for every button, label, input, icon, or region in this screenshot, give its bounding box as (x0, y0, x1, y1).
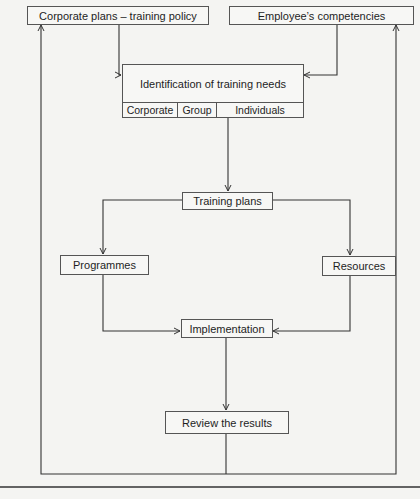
level-individuals: Individuals (217, 103, 303, 117)
node-resources-label: Resources (333, 260, 386, 272)
node-identification-of-training-needs: Identification of training needs Corpora… (122, 64, 304, 118)
node-review-label: Review the results (182, 417, 272, 429)
identification-levels-row: Corporate Group Individuals (123, 102, 303, 117)
arrow-programmes-to-implementation (103, 275, 180, 331)
node-programmes: Programmes (60, 255, 149, 275)
node-training-plans: Training plans (182, 192, 273, 210)
node-training-plans-label: Training plans (193, 195, 262, 207)
arrow-training-plans-to-resources (273, 200, 350, 255)
arrow-corporate-to-identification (119, 24, 121, 75)
arrow-resources-to-implementation (273, 276, 350, 331)
node-employee-competencies: Employee’s competencies (229, 6, 414, 25)
node-employee-competencies-label: Employee’s competencies (258, 10, 386, 22)
arrow-training-plans-to-programmes (103, 200, 182, 254)
node-review-the-results: Review the results (165, 411, 289, 434)
arrow-competencies-to-identification (304, 24, 337, 75)
node-corporate-plans-label: Corporate plans – training policy (39, 10, 197, 22)
node-resources: Resources (322, 256, 396, 276)
node-implementation: Implementation (181, 319, 273, 338)
node-implementation-label: Implementation (189, 323, 264, 335)
level-group: Group (178, 103, 217, 117)
node-programmes-label: Programmes (73, 259, 136, 271)
level-corporate: Corporate (123, 103, 178, 117)
node-corporate-plans: Corporate plans – training policy (27, 6, 209, 25)
identification-title: Identification of training needs (123, 65, 303, 102)
